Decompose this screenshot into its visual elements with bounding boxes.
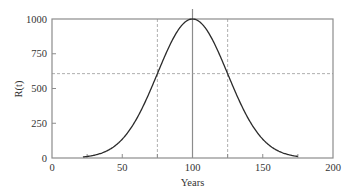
y-axis-label: R(t) xyxy=(13,80,25,97)
y-tick-label: 500 xyxy=(31,83,47,94)
x-tick-label: 200 xyxy=(325,162,341,173)
x-tick-label: 0 xyxy=(49,162,54,173)
reference-lines xyxy=(52,9,333,158)
x-axis-label: Years xyxy=(181,177,204,188)
axis-ticks xyxy=(52,54,298,158)
y-tick-label: 750 xyxy=(31,48,47,59)
y-tick-label: 1000 xyxy=(26,14,47,25)
y-tick-label: 0 xyxy=(42,153,47,164)
y-tick-label: 250 xyxy=(31,118,47,129)
x-tick-label: 50 xyxy=(117,162,128,173)
x-tick-label: 150 xyxy=(255,162,271,173)
r-of-t-curve xyxy=(83,19,298,157)
x-tick-label: 100 xyxy=(185,162,201,173)
bell-curve-chart: 05010015020002505007501000 Years R(t) xyxy=(0,0,358,193)
axis-tick-labels: 05010015020002505007501000 xyxy=(26,14,341,174)
